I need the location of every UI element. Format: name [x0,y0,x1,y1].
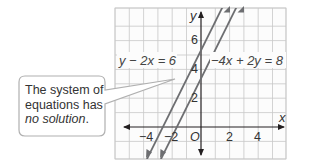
equation-label-2: −4x + 2y = 8 [211,53,284,68]
x-axis-label: x [278,110,286,125]
callout-period: . [85,112,88,126]
callout-line-3: no solution. [25,112,105,127]
tick-x-neg2: −2 [164,130,178,144]
tick-y-6: 6 [191,33,198,47]
callout-line-1: The system of [25,83,105,98]
tick-x-neg4: −4 [139,130,153,144]
callout-emphasis: no solution [25,112,85,126]
equation-label-1: y − 2x = 6 [118,53,177,68]
tick-y-2: 2 [191,91,198,105]
callout-text: The system of equations has no solution. [25,83,105,127]
tick-y-4: 4 [191,62,198,76]
callout-line-2: equations has [25,98,105,113]
tick-x-2: 2 [226,130,233,144]
origin-label: O [190,130,200,144]
tick-x-4: 4 [254,130,261,144]
